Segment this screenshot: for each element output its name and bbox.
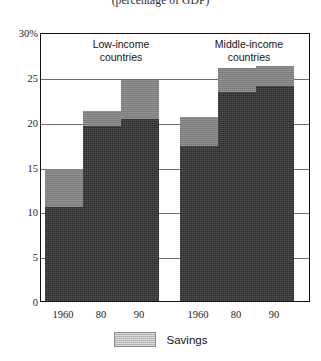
x-axis-tick-label: 80 — [231, 309, 242, 320]
bar-low-income-80 — [83, 111, 121, 301]
bar-segment-investment — [45, 207, 83, 301]
bar-segment-investment — [83, 126, 121, 301]
x-axis-tick-label: 80 — [96, 309, 107, 320]
bar-segment-investment — [180, 146, 218, 301]
y-axis-tick-label: 30% — [2, 28, 38, 39]
y-axis-tick-label: 5 — [2, 252, 38, 263]
bar-segment-savings — [121, 80, 159, 119]
y-axis-tick-label: 15 — [2, 162, 38, 173]
legend-label-savings: Savings — [167, 334, 208, 346]
bar-segment-savings — [83, 111, 121, 126]
x-axis-tick-label: 1960 — [53, 309, 74, 320]
group-label-low-income: Low-income countries — [61, 38, 181, 63]
bar-segment-investment — [256, 86, 294, 301]
x-axis-tick-label: 1960 — [188, 309, 209, 320]
bar-low-income-1960 — [45, 169, 83, 301]
y-axis: 051015202530% — [0, 33, 38, 302]
x-axis-tick-label: 90 — [269, 309, 280, 320]
group-label-low-income-line1: Low-income — [61, 38, 181, 51]
group-label-middle-income-line1: Middle-income — [189, 38, 309, 51]
y-axis-tick-label: 20 — [2, 117, 38, 128]
bar-segment-investment — [121, 119, 159, 301]
group-label-middle-income: Middle-income countries — [189, 38, 309, 63]
bar-segment-savings — [256, 66, 294, 86]
y-axis-tick-label: 10 — [2, 207, 38, 218]
bar-segment-investment — [218, 92, 256, 301]
legend-swatch-savings — [114, 332, 156, 347]
x-axis: 1960809019608090 — [40, 303, 310, 327]
y-axis-tick-label: 25 — [2, 72, 38, 83]
chart-title: (percentage of GDP) — [0, 0, 321, 6]
bar-segment-savings — [218, 68, 256, 92]
plot-area: Low-income countries Middle-income count… — [40, 33, 310, 302]
group-label-middle-income-line2: countries — [189, 51, 309, 64]
chart-legend: Savings — [0, 332, 321, 347]
group-label-low-income-line2: countries — [61, 51, 181, 64]
chart-figure: (percentage of GDP) 051015202530% Low-in… — [0, 0, 321, 361]
bar-segment-savings — [180, 117, 218, 146]
x-axis-tick-label: 90 — [134, 309, 145, 320]
bar-low-income-90 — [121, 80, 159, 301]
bar-middle-income-90 — [256, 66, 294, 301]
bar-segment-savings — [45, 169, 83, 207]
bar-middle-income-1960 — [180, 117, 218, 301]
bar-middle-income-80 — [218, 68, 256, 301]
y-axis-tick-label: 0 — [2, 297, 38, 308]
